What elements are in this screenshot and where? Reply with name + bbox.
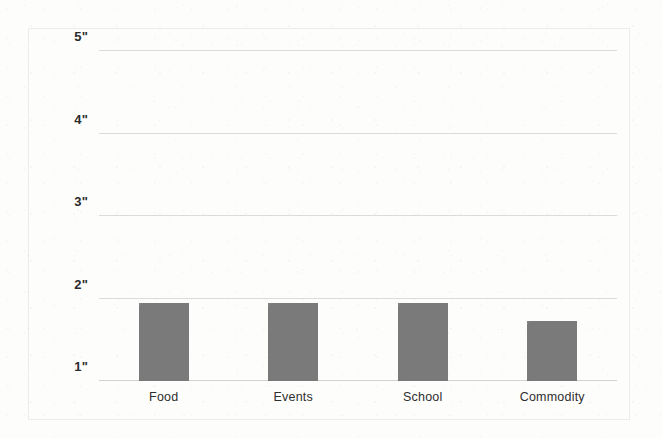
x-tick-label-school: School bbox=[403, 390, 442, 404]
bar-events bbox=[268, 303, 318, 381]
y-tick-label-1: 1" bbox=[74, 359, 88, 374]
bar-group-school: School bbox=[358, 51, 488, 381]
bar-commodity bbox=[527, 321, 577, 381]
bar-group-commodity: Commodity bbox=[488, 51, 618, 381]
bar-food bbox=[139, 303, 189, 381]
chart-frame: 1"2"3"4"5" FoodEventsSchoolCommodity bbox=[28, 28, 630, 420]
x-tick-label-commodity: Commodity bbox=[520, 390, 585, 404]
bars-layer: FoodEventsSchoolCommodity bbox=[99, 51, 617, 381]
y-tick-label-5: 5" bbox=[74, 29, 88, 44]
y-tick-label-2: 2" bbox=[74, 276, 88, 291]
x-tick-label-food: Food bbox=[149, 390, 178, 404]
bar-school bbox=[398, 303, 448, 381]
y-tick-label-3: 3" bbox=[74, 194, 88, 209]
y-tick-label-4: 4" bbox=[74, 111, 88, 126]
x-tick-label-events: Events bbox=[274, 390, 313, 404]
plot-area: 1"2"3"4"5" FoodEventsSchoolCommodity bbox=[99, 51, 617, 381]
bar-group-events: Events bbox=[229, 51, 359, 381]
bar-group-food: Food bbox=[99, 51, 229, 381]
